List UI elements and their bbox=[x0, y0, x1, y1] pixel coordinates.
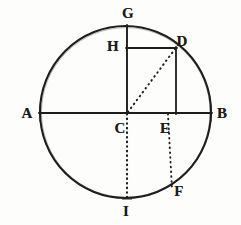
geometry-figure: A B C D E F G H I bbox=[0, 0, 241, 225]
point-label-h: H bbox=[107, 39, 119, 54]
segment-diagonal-cd bbox=[128, 49, 175, 112]
point-label-b: B bbox=[217, 106, 227, 121]
point-label-e: E bbox=[160, 121, 170, 136]
point-label-f: F bbox=[174, 184, 183, 199]
point-label-a: A bbox=[21, 106, 32, 121]
point-label-g: G bbox=[122, 6, 134, 21]
point-label-c: C bbox=[114, 121, 125, 136]
point-label-i: I bbox=[123, 204, 129, 219]
geometry-canvas bbox=[0, 0, 241, 225]
point-label-d: D bbox=[176, 34, 187, 49]
